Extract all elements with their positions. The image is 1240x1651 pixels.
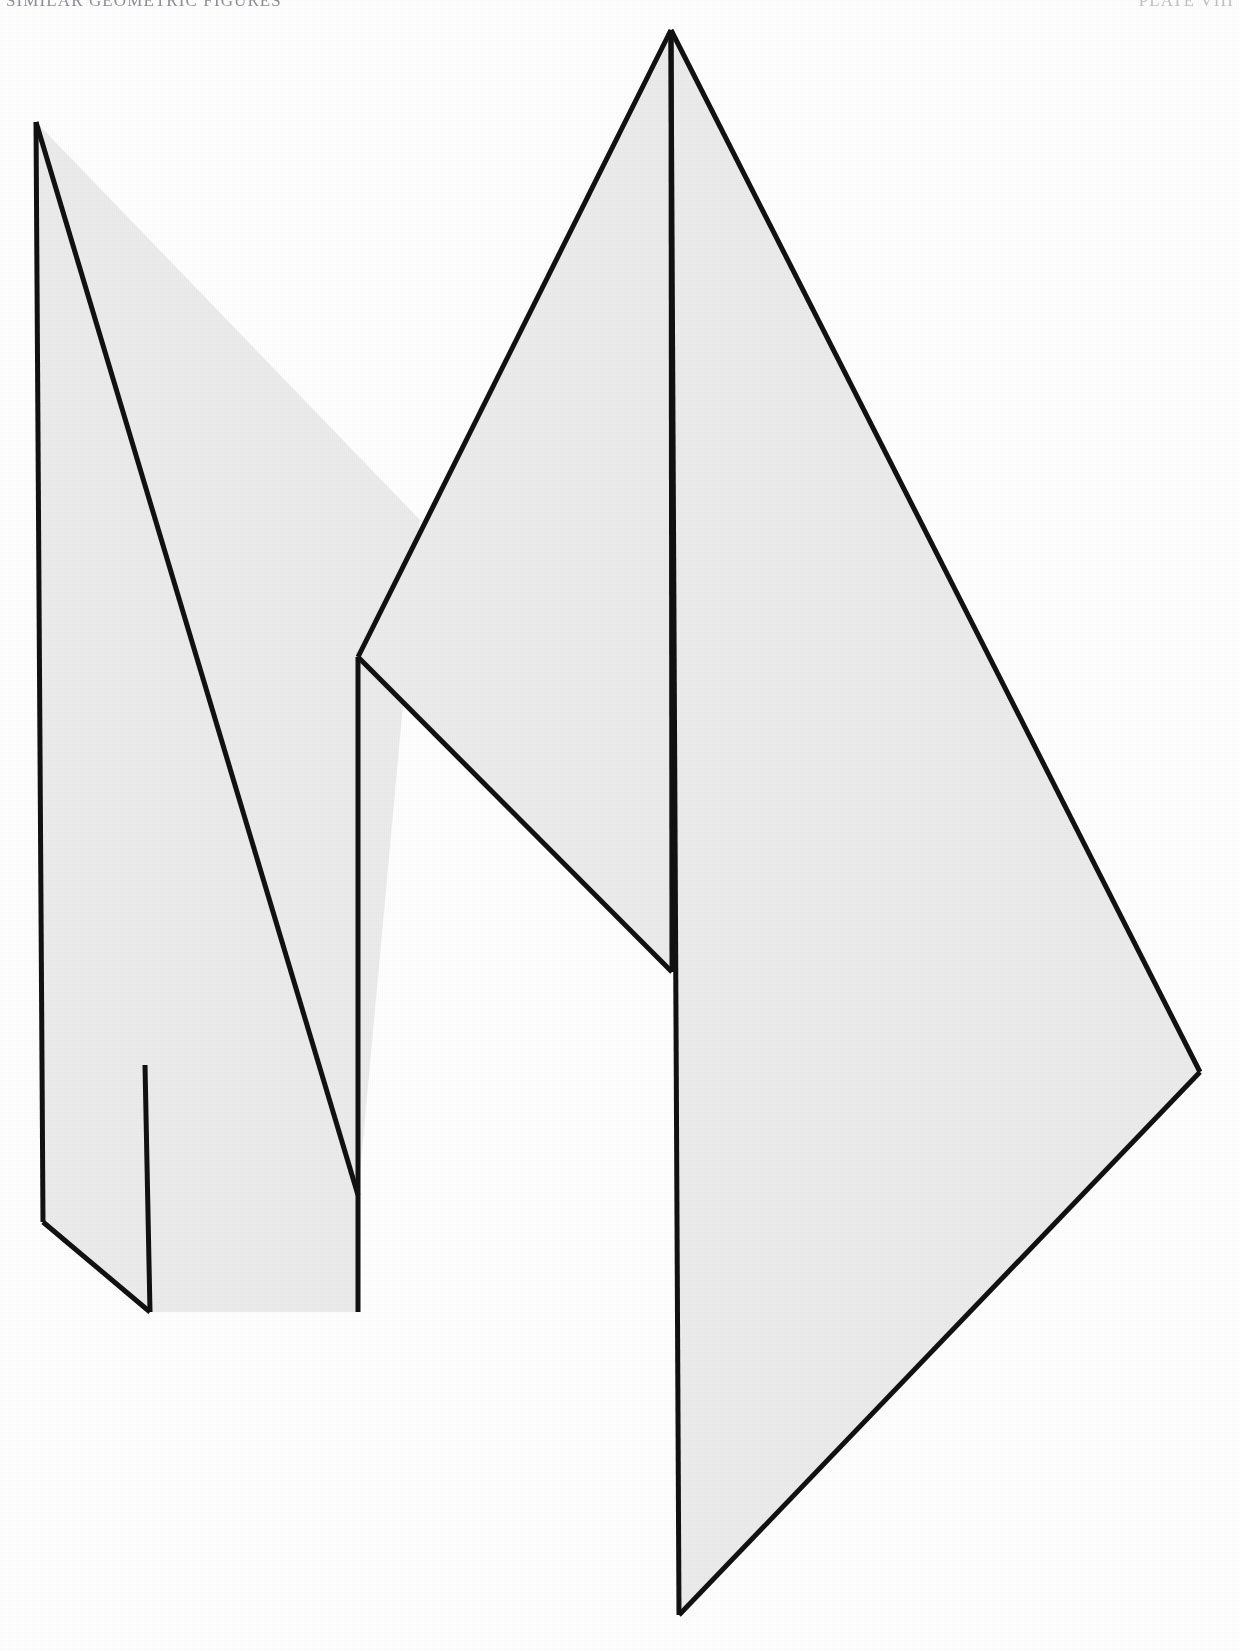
overlapping-triangles-figure	[0, 0, 1240, 1651]
shape-right-triangle[interactable]	[671, 30, 1200, 1615]
shape-middle-triangle[interactable]	[358, 30, 672, 972]
shape-left-triangle[interactable]	[36, 122, 420, 1312]
page-canvas: SIMILAR GEOMETRIC FIGURES PLATE VIII	[0, 0, 1240, 1651]
figure-fills	[36, 30, 1200, 1615]
